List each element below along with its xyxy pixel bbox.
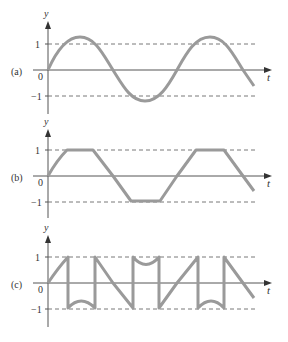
tick-label-minus-one: −1 [31, 91, 42, 102]
y-axis-arrow-icon [45, 235, 51, 243]
panel-b: y t 1 0 −1 (b) [11, 116, 272, 218]
tick-label-zero: 0 [38, 71, 43, 82]
panel-label: (c) [11, 279, 22, 291]
y-axis-arrow-icon [45, 21, 51, 29]
tick-label-zero: 0 [38, 177, 43, 188]
y-axis-label: y [43, 8, 49, 19]
t-axis-label: t [267, 177, 271, 189]
tick-label-zero: 0 [38, 284, 43, 295]
t-axis-label: t [267, 71, 271, 83]
y-axis-arrow-icon [45, 129, 51, 137]
figure: y t 1 0 −1 (a) y t 1 0 −1 (b) y t [0, 0, 288, 342]
signal-curve [48, 37, 254, 101]
tick-label-plus-one: 1 [35, 39, 40, 50]
tick-label-plus-one: 1 [35, 252, 40, 263]
y-axis-label: y [43, 222, 49, 233]
panel-label: (a) [11, 66, 22, 78]
t-axis-label: t [267, 284, 271, 296]
panel-c: y t 1 0 −1 (c) [11, 222, 272, 327]
panel-a: y t 1 0 −1 (a) [11, 8, 272, 114]
tick-label-minus-one: −1 [31, 304, 42, 315]
tick-label-minus-one: −1 [31, 197, 42, 208]
y-axis-label: y [43, 116, 49, 127]
panel-label: (b) [11, 172, 23, 184]
tick-label-plus-one: 1 [35, 145, 40, 156]
